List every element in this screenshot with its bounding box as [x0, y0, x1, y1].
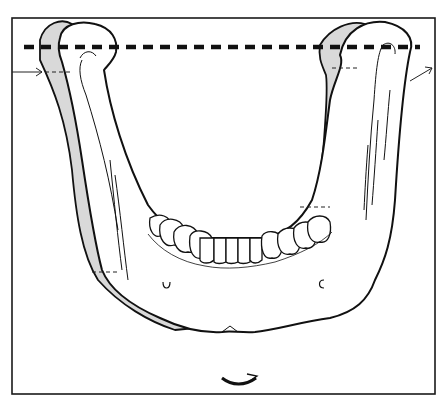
mandible-illustration — [0, 0, 447, 404]
mandible-figure — [0, 0, 447, 404]
